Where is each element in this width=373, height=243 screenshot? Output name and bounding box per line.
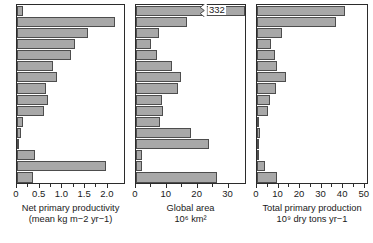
bar-row — [136, 27, 245, 38]
bar — [136, 28, 159, 38]
bar-row — [136, 94, 245, 105]
bar-row — [257, 94, 367, 105]
bar — [257, 95, 270, 105]
bar-row — [17, 27, 124, 38]
bar — [17, 95, 48, 105]
bar-row — [17, 38, 124, 49]
axis-caption-line1: Net primary productivity — [16, 203, 125, 214]
axis-minor-tick — [353, 184, 354, 187]
bar-rows — [136, 5, 245, 183]
bar-row — [17, 16, 124, 27]
broken-bar-value-label: 332 — [208, 5, 226, 15]
plot-area-net-primary-productivity — [16, 4, 125, 184]
bar — [257, 39, 271, 49]
bar-row — [257, 172, 367, 183]
bar — [17, 161, 106, 171]
bar-row — [17, 5, 124, 16]
bar-row — [257, 127, 367, 138]
axis-tick-label: 10 — [272, 188, 283, 199]
x-axis-global-area: 0102030Global area10⁶ km² — [135, 184, 246, 243]
bar — [257, 128, 260, 138]
bar — [257, 106, 268, 116]
axis-minor-tick — [181, 184, 182, 187]
x-axis-total-primary-production: 01020304050Total primary production10⁹ d… — [256, 184, 368, 243]
bar-row — [257, 50, 367, 61]
bar — [136, 161, 142, 171]
bar-row — [17, 61, 124, 72]
bar-row — [257, 150, 367, 161]
axis-break-marker: 332 — [198, 4, 226, 17]
bar-row — [257, 61, 367, 72]
axis-caption-line2: 10⁹ dry tons yr−1 — [256, 214, 368, 225]
bar-row — [17, 50, 124, 61]
axis-minor-tick — [267, 184, 268, 187]
axis-minor-tick — [73, 184, 74, 187]
bar-row — [136, 50, 245, 61]
bar — [257, 139, 259, 149]
bar — [136, 139, 209, 149]
bar — [257, 150, 259, 160]
bar-row — [136, 72, 245, 83]
bar-row — [136, 5, 245, 16]
bar — [136, 172, 217, 182]
bar — [136, 72, 181, 82]
bar-row — [257, 72, 367, 83]
bar — [136, 39, 151, 49]
axis-caption-line2: (mean kg m−2 yr−1) — [16, 214, 125, 225]
bar — [136, 17, 187, 27]
bar-row — [17, 127, 124, 138]
axis-minor-tick — [50, 184, 51, 187]
bar-row — [17, 83, 124, 94]
bar-row — [17, 139, 124, 150]
plot-area-total-primary-production — [256, 4, 368, 184]
bar — [257, 161, 265, 171]
bar-row — [257, 5, 367, 16]
bar-rows — [17, 5, 124, 183]
axis-minor-tick — [331, 184, 332, 187]
bar-row — [136, 83, 245, 94]
bar — [257, 61, 277, 71]
bar — [257, 50, 275, 60]
bar-row — [136, 105, 245, 116]
axis-minor-tick — [310, 184, 311, 187]
bar — [17, 28, 88, 38]
zigzag-break-icon — [198, 4, 207, 17]
axis-tick-label: 10 — [161, 188, 172, 199]
bar-row — [17, 105, 124, 116]
bar — [17, 17, 115, 27]
axis-tick-label: 1.5 — [78, 188, 91, 199]
bar — [17, 106, 44, 116]
bar-row — [136, 38, 245, 49]
axis-caption-global-area: Global area10⁶ km² — [135, 203, 246, 226]
bar — [136, 61, 172, 71]
bar — [257, 6, 345, 16]
bar-row — [17, 72, 124, 83]
x-axis-net-primary-productivity: 00.51.01.52.0Net primary productivity(me… — [16, 184, 125, 243]
bar-row — [257, 161, 367, 172]
bar — [257, 28, 282, 38]
bar-row — [17, 150, 124, 161]
bar — [17, 117, 23, 127]
bar — [257, 17, 336, 27]
bar-row — [136, 172, 245, 183]
bar-row — [136, 127, 245, 138]
axis-caption-line1: Global area — [135, 203, 246, 214]
axis-minor-tick — [27, 184, 28, 187]
bar-row — [257, 105, 367, 116]
bar-row — [136, 161, 245, 172]
bar-row — [257, 139, 367, 150]
bar-row — [136, 139, 245, 150]
bar — [17, 39, 75, 49]
bar — [257, 83, 276, 93]
axis-caption-net-primary-productivity: Net primary productivity(mean kg m−2 yr−… — [16, 203, 125, 226]
axis-tick-label: 30 — [315, 188, 326, 199]
bar — [17, 128, 21, 138]
bar-row — [136, 150, 245, 161]
axis-caption-total-primary-production: Total primary production10⁹ dry tons yr−… — [256, 203, 368, 226]
axis-minor-tick — [288, 184, 289, 187]
bar — [257, 117, 259, 127]
axis-caption-line2: 10⁶ km² — [135, 214, 246, 225]
bar — [17, 50, 71, 60]
axis-tick-label: 30 — [222, 188, 233, 199]
bar — [136, 50, 157, 60]
